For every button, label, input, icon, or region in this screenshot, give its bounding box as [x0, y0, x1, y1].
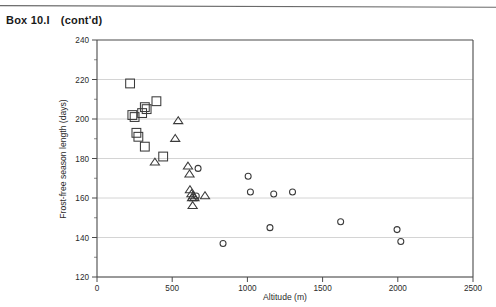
data-point-triangle — [188, 202, 197, 209]
figure-root: Box 10.I(cont'd) 120140160180200220240 0… — [0, 0, 496, 307]
data-point-circle — [245, 173, 251, 179]
data-point-triangle — [150, 158, 159, 165]
grid-lines — [97, 80, 473, 278]
y-tick-label-200: 200 — [75, 115, 89, 124]
data-point-triangle — [185, 170, 194, 177]
data-point-circle — [338, 219, 344, 225]
data-point-square — [152, 97, 161, 106]
data-points — [126, 79, 404, 246]
series-triangle-series — [150, 117, 209, 209]
y-tick-label-120: 120 — [75, 273, 89, 282]
data-point-circle — [290, 189, 296, 195]
y-tick-labels: 120140160180200220240 — [75, 36, 89, 282]
y-axis-title: Frost-free season length (days) — [58, 99, 68, 219]
x-tick-label-1000: 1000 — [238, 284, 257, 293]
x-tick-label-0: 0 — [95, 284, 100, 293]
x-tick-label-1500: 1500 — [313, 284, 332, 293]
data-point-square — [140, 142, 149, 151]
data-point-circle — [271, 191, 277, 197]
series-square-series — [126, 79, 168, 161]
data-point-triangle — [174, 117, 183, 124]
data-point-square — [159, 152, 168, 161]
y-tick-label-240: 240 — [75, 36, 89, 45]
data-point-circle — [220, 240, 226, 246]
axis-ticks — [92, 40, 473, 282]
data-point-square — [126, 79, 135, 88]
data-point-square — [128, 111, 137, 120]
x-axis-title: Altitude (m) — [263, 292, 307, 302]
y-tick-label-220: 220 — [75, 76, 89, 85]
data-point-circle — [394, 227, 400, 233]
scatter-chart: 120140160180200220240 050010001500200025… — [0, 0, 496, 307]
x-tick-label-2500: 2500 — [464, 284, 483, 293]
series-circle-series — [193, 165, 404, 246]
y-tick-label-140: 140 — [75, 234, 89, 243]
data-point-circle — [267, 225, 273, 231]
data-point-circle — [398, 238, 404, 244]
data-point-triangle — [171, 134, 180, 141]
x-tick-label-2000: 2000 — [389, 284, 408, 293]
chart-canvas: 120140160180200220240 050010001500200025… — [0, 0, 496, 307]
data-point-circle — [195, 165, 201, 171]
x-tick-label-500: 500 — [165, 284, 179, 293]
data-point-circle — [247, 189, 253, 195]
y-tick-label-180: 180 — [75, 155, 89, 164]
y-tick-label-160: 160 — [75, 194, 89, 203]
data-point-triangle — [183, 162, 192, 169]
